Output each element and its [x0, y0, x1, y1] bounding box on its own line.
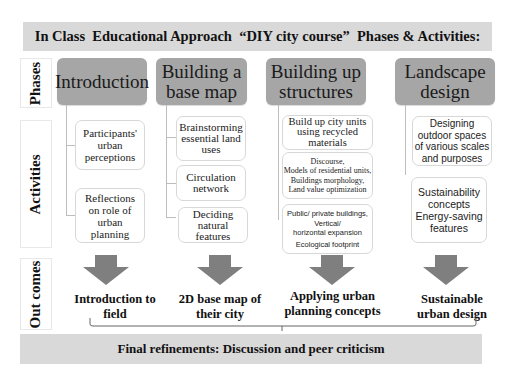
grouping-bracket [88, 318, 478, 332]
header-title: In Class Educational Approach “DIY city … [35, 28, 481, 45]
down-arrow-icon [309, 255, 355, 285]
activity-text: Vertical/ [314, 219, 341, 229]
activity-box: Build up city units using recycled mater… [282, 115, 373, 150]
activity-text: Deciding natural features [179, 209, 247, 242]
outcome-line: Sustainable [412, 292, 492, 307]
activity-text: Participants' urban perceptions [76, 127, 144, 163]
activity-text: Public/ private buildings, [287, 209, 368, 219]
outcome-line: Introduction to [70, 292, 160, 307]
outcome-line: Applying urban [280, 289, 385, 304]
phase-label-line: base map [166, 82, 237, 102]
activity-text: outdoor spaces [418, 130, 486, 142]
connector-line [66, 105, 67, 215]
phase-introduction-label: Introduction [55, 72, 149, 92]
down-arrow-icon [83, 255, 129, 285]
phase-building-base-map: Building a base map [156, 58, 247, 105]
phase-introduction: Introduction [57, 58, 147, 105]
activity-text: Land value optimization [288, 185, 366, 195]
phase-landscape-design: Landscape design [395, 58, 495, 105]
row-label-outcomes: Out comes [20, 258, 52, 330]
phase-label-line: structures [279, 82, 353, 102]
down-arrow-icon [197, 255, 243, 285]
activity-box: Public/ private buildings, Vertical/ hor… [282, 204, 373, 254]
activity-text: Sustainability [418, 186, 480, 198]
row-label-phases: Phases [20, 58, 52, 108]
connector-line [405, 105, 406, 175]
connector-line [66, 145, 75, 146]
activity-text: concepts [428, 198, 470, 210]
row-label-outcomes-text: Out comes [28, 260, 45, 328]
phase-label-line: design [420, 82, 470, 102]
row-label-activities-text: Activities [28, 154, 45, 214]
activity-text: Circulation network [177, 172, 245, 194]
activity-box: Discourse, Models of residential units, … [282, 152, 373, 199]
activity-box: Brainstorming essential land uses [176, 116, 246, 161]
connector-line [278, 105, 279, 220]
activity-text: Discourse, [311, 157, 345, 167]
phase-label-line: Landscape [404, 62, 485, 82]
row-label-activities: Activities [20, 120, 52, 248]
activity-text: Energy-saving [415, 210, 482, 222]
header-banner: In Class Educational Approach “DIY city … [23, 22, 492, 51]
row-label-phases-text: Phases [28, 61, 45, 104]
activity-text: Ecological footprint [296, 240, 359, 250]
activity-box: Sustainability concepts Energy-saving fe… [411, 177, 487, 243]
footer-title: Final refinements: Discussion and peer c… [117, 341, 384, 357]
activity-box: Reflections on role of urban planning [75, 188, 145, 243]
connector-line [166, 105, 167, 217]
activity-text: Designing [430, 118, 474, 130]
activity-text: Buildings morphology, [291, 176, 365, 186]
phase-building-up-structures: Building up structures [266, 58, 366, 105]
connector-line [66, 215, 75, 216]
outcome-line: planning concepts [280, 304, 385, 319]
connector-line [166, 183, 176, 184]
activity-text: and purposes [422, 153, 483, 165]
down-arrow-icon [423, 255, 469, 285]
phase-label-line: Building a [162, 62, 242, 82]
connector-line [166, 217, 176, 218]
activity-text: horizontal expansion [293, 228, 362, 238]
activity-text: features [430, 222, 468, 234]
activity-box: Deciding natural features [178, 207, 248, 243]
footer-banner: Final refinements: Discussion and peer c… [20, 334, 482, 364]
activity-box: Circulation network [176, 165, 246, 201]
activity-text: materials [308, 138, 346, 149]
activity-box: Participants' urban perceptions [75, 120, 145, 170]
activity-text: of various scales [415, 141, 489, 153]
activity-text: Brainstorming essential land uses [176, 122, 246, 155]
outcome-text: Applying urban planning concepts [280, 289, 385, 319]
activity-text: Reflections on role of urban planning [76, 192, 144, 240]
activity-text: Models of residential units, [284, 166, 372, 176]
phase-label-line: Building up [271, 62, 361, 82]
outcome-line: 2D base map of [170, 292, 270, 307]
activity-box: Designing outdoor spaces of various scal… [412, 116, 492, 166]
connector-line [166, 137, 176, 138]
